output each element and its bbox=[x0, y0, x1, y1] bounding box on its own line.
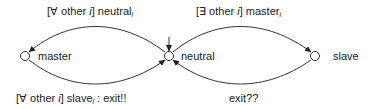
state-diagram: master neutral slave [∀ other i] neutral… bbox=[0, 0, 377, 109]
state-slave-label: slave bbox=[333, 50, 359, 62]
transition-slave-to-neutral bbox=[173, 60, 311, 84]
guard-master-to-neutral: [∀ other i] slavei : exit!! bbox=[16, 92, 126, 105]
transition-neutral-to-master bbox=[29, 27, 165, 53]
transition-master-to-neutral bbox=[29, 60, 165, 84]
guard-neutral-to-master: [∀ other i] neutrali bbox=[47, 5, 133, 18]
state-neutral-label: neutral bbox=[181, 50, 215, 62]
state-master-label: master bbox=[38, 50, 72, 62]
label-slave-to-neutral: exit?? bbox=[229, 92, 258, 104]
state-neutral-node bbox=[165, 52, 174, 61]
guard-neutral-to-slave: [∃ other i] masteri bbox=[196, 5, 281, 18]
state-slave-node bbox=[311, 52, 320, 61]
transition-neutral-to-slave bbox=[173, 27, 311, 53]
state-master-node bbox=[21, 52, 30, 61]
